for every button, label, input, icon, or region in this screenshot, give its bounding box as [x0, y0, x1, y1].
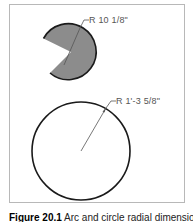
caption-text: Arc and circle radial dimensions [62, 212, 193, 222]
cad-drawing [0, 0, 193, 210]
arc-radius-label: R 10 1/8" [89, 15, 128, 25]
circle-radius-leader [81, 101, 116, 151]
figure-number: Figure 20.1 [9, 212, 62, 222]
circle-radius-label: R 1'-3 5/8" [116, 96, 160, 106]
figure-caption: Figure 20.1 Arc and circle radial dimens… [9, 211, 193, 222]
